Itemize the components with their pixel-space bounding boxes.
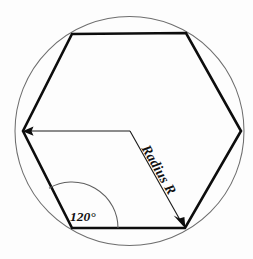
radius-label-group: Radius R: [138, 141, 179, 197]
radius-label: Radius R: [138, 141, 179, 197]
interior-angle-label: 120°: [70, 209, 96, 224]
figure-canvas: Radius R 120°: [0, 0, 253, 259]
radius-arrowhead-corner: [174, 216, 186, 229]
hexagon-in-circle-diagram: Radius R 120°: [0, 0, 253, 259]
